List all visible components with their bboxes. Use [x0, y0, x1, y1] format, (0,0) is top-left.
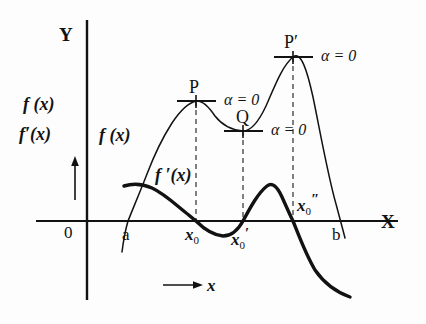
tick-prime-x0-dprime: ″ — [311, 191, 319, 207]
tick-base-x0: x — [185, 225, 194, 244]
tick-label-x0-dprime: x0″ — [297, 192, 319, 217]
legend-label-f: f (x) — [23, 95, 54, 113]
point-label-Q: Q — [236, 108, 249, 126]
tick-base-x0-dprime: x — [297, 196, 306, 215]
alpha-annotation-Q: α = 0 — [271, 122, 306, 138]
direction-label-x: x — [207, 277, 216, 294]
legend-label-f-prime: f′(x) — [19, 125, 51, 143]
tick-label-b: b — [332, 226, 341, 243]
up-arrow-icon — [71, 156, 79, 200]
tick-prime-x0-prime: ′ — [245, 225, 249, 241]
tick-label-x0: x0 — [185, 226, 199, 246]
origin-label: 0 — [64, 224, 73, 241]
curve-f — [122, 56, 345, 252]
curve-label-f: f (x) — [99, 126, 130, 144]
alpha-annotation-P: α = 0 — [224, 92, 259, 108]
tick-label-a: a — [122, 226, 130, 243]
right-arrow-icon — [163, 281, 203, 289]
curve-label-f-prime: f ′(x) — [155, 166, 192, 184]
point-label-P: P — [189, 78, 199, 96]
tick-label-x0-prime: x0′ — [231, 226, 249, 251]
point-label-P-prime: P′ — [284, 33, 298, 51]
figure-canvas: Y X 0 f (x) f′(x) f (x) f ′(x) P α = 0 Q… — [0, 0, 426, 324]
tick-sub-x0: 0 — [194, 234, 200, 246]
y-axis-label: Y — [59, 25, 73, 44]
tick-base-x0-prime: x — [231, 230, 240, 249]
alpha-annotation-P-prime: α = 0 — [321, 48, 356, 64]
dashed-guides — [196, 57, 293, 221]
x-axis-label: X — [381, 212, 395, 231]
